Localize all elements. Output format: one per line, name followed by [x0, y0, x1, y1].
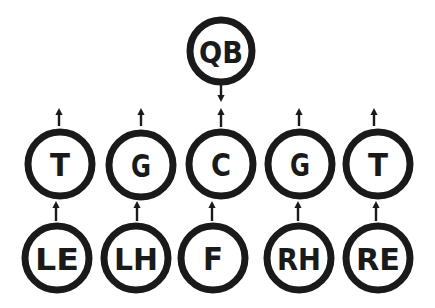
- arrow-up-icon: [217, 108, 224, 127]
- player-label: RH: [277, 242, 321, 277]
- player-label: T: [50, 146, 70, 184]
- player-lg: G: [109, 133, 173, 197]
- player-lt: T: [28, 132, 92, 196]
- player-label: G: [290, 146, 310, 184]
- arrow-down-icon: [217, 84, 224, 102]
- player-qb: QB: [190, 20, 252, 82]
- arrow-up-icon: [372, 201, 379, 221]
- arrow-up-icon: [294, 201, 301, 221]
- player-label: QB: [199, 35, 243, 70]
- player-lh: LH: [104, 226, 168, 290]
- player-label: G: [131, 147, 151, 185]
- player-rt: T: [346, 132, 410, 196]
- player-c: C: [189, 132, 253, 196]
- players-layer: QBTGCGTLELHFRHRE: [25, 20, 410, 290]
- player-re: RE: [346, 226, 410, 290]
- player-le: LE: [25, 226, 89, 290]
- player-label: T: [368, 146, 388, 184]
- player-label: F: [203, 240, 223, 278]
- player-rg: G: [268, 132, 332, 196]
- player-rh: RH: [267, 226, 331, 290]
- player-label: C: [211, 146, 231, 184]
- arrow-up-icon: [208, 201, 215, 221]
- arrow-up-icon: [370, 108, 377, 126]
- arrow-up-icon: [52, 201, 59, 221]
- arrow-up-icon: [137, 108, 144, 126]
- player-f: F: [181, 226, 245, 290]
- player-label: LH: [114, 242, 158, 277]
- arrow-up-icon: [295, 108, 302, 126]
- arrow-up-icon: [133, 201, 140, 221]
- formation-diagram: QBTGCGTLELHFRHRE: [0, 0, 435, 308]
- arrow-up-icon: [55, 108, 62, 126]
- player-label: RE: [356, 242, 400, 277]
- player-label: LE: [35, 242, 79, 277]
